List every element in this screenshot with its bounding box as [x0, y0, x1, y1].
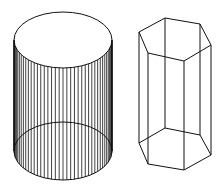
wireframe-drawing	[0, 0, 219, 186]
hexagonal-prism-wireframe	[139, 18, 211, 170]
cylinder-wireframe	[14, 12, 112, 180]
top-ellipse	[14, 12, 112, 68]
figure	[0, 0, 219, 186]
